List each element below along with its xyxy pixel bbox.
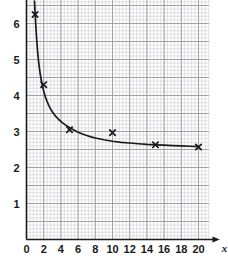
y-tick-label: 5	[13, 54, 19, 66]
y-tick-label: 6	[13, 18, 19, 30]
x-tick-label: 6	[75, 243, 81, 255]
x-tick-label: 4	[58, 243, 65, 255]
x-tick-label: 20	[192, 243, 204, 255]
x-tick-label: 14	[141, 243, 154, 255]
x-tick-label: 2	[41, 243, 47, 255]
x-tick-label: 12	[124, 243, 136, 255]
x-axis-label: x	[221, 242, 228, 254]
graph-plot: 02468101214161820123456 yx	[0, 0, 228, 269]
x-tick-label: 16	[158, 243, 170, 255]
y-tick-label: 1	[13, 198, 19, 210]
chart-figure: 02468101214161820123456 yx	[0, 0, 228, 269]
x-tick-label: 18	[175, 243, 187, 255]
x-tick-label: 10	[106, 243, 118, 255]
y-tick-label: 4	[13, 90, 20, 102]
y-tick-label: 2	[13, 162, 19, 174]
x-tick-label: 0	[23, 243, 29, 255]
axes	[23, 0, 219, 243]
x-tick-label: 8	[92, 243, 98, 255]
y-tick-label: 3	[13, 126, 19, 138]
